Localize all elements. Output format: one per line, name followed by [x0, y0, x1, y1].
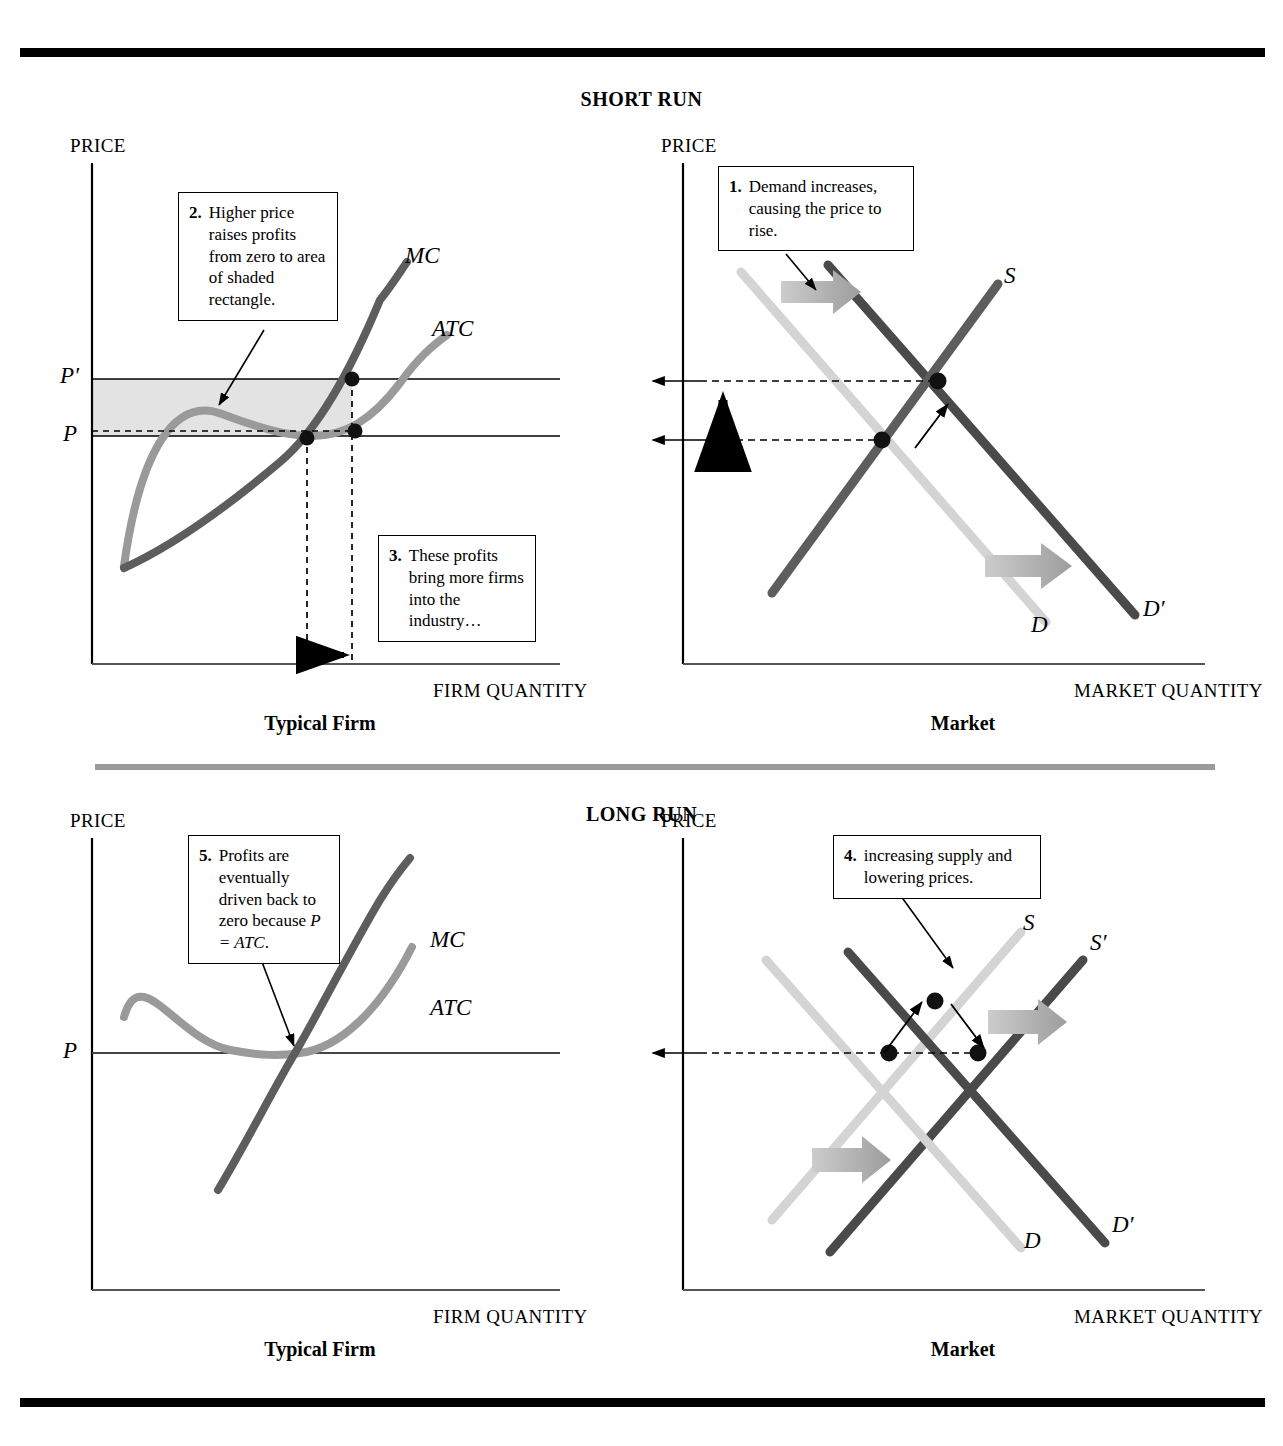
lr-firm-atc-label: ATC — [430, 995, 471, 1021]
callout-3-text: These profits bring more firms into the … — [409, 545, 525, 632]
lr-firm-price-label: P — [63, 1038, 77, 1064]
callout-1-text: Demand increases, causing the price to r… — [749, 176, 903, 241]
sr-firm-atc-label: ATC — [432, 316, 473, 342]
market-dot-shortrun-eq-lr — [927, 993, 944, 1010]
callout-5-leader-line — [262, 962, 294, 1046]
lr-market-supply-old-label: S — [1023, 910, 1035, 936]
callout-4-leader-line — [898, 892, 953, 968]
callout-3: 3. These profits bring more firms into t… — [378, 535, 536, 642]
callout-4-number: 4. — [844, 845, 857, 889]
lr-market-supply-new-label: S′ — [1090, 930, 1107, 956]
callout-5-number: 5. — [199, 845, 212, 954]
callout-4-text: increasing supply and lowering prices. — [864, 845, 1030, 889]
atc-curve-short-run — [124, 335, 447, 566]
demand-shift-arrow-lr — [812, 1136, 891, 1183]
callout-5-text-part2: . — [265, 933, 269, 952]
sr-market-supply-label: S — [1004, 263, 1016, 289]
market-dot-old-eq-sr — [874, 432, 891, 449]
market-dot-new-eq-sr — [930, 373, 947, 390]
callout-5-text: Profits are eventually driven back to ze… — [219, 845, 329, 954]
firm-dot-atc-high-q — [348, 424, 363, 439]
sr-firm-price-label-low: P — [63, 421, 77, 447]
callout-5: 5. Profits are eventually driven back to… — [188, 835, 340, 964]
callout-1-number: 1. — [729, 176, 742, 241]
callout-2-text: Higher price raises profits from zero to… — [209, 202, 327, 311]
callout-4: 4. increasing supply and lowering prices… — [833, 835, 1041, 899]
callout-5-text-part1: Profits are eventually driven back to ze… — [219, 846, 316, 930]
callout-1: 1. Demand increases, causing the price t… — [718, 166, 914, 251]
market-eq-move-arrow-sr — [915, 404, 948, 448]
firm-dot-mc-eq-high — [345, 372, 360, 387]
callout-3-number: 3. — [389, 545, 402, 632]
sr-firm-price-label-high: P′ — [60, 363, 79, 389]
lr-firm-mc-label: MC — [430, 927, 465, 953]
demand-shift-arrow-sr — [781, 270, 861, 314]
lr-market-demand-old-label: D — [1024, 1228, 1041, 1254]
firm-dot-mc-eq-low — [300, 431, 315, 446]
demand-shift-arrow-sr-lower — [985, 543, 1072, 589]
market-eq-move-arrow-down-lr — [951, 1004, 984, 1048]
figure-container: SHORT RUN LONG RUN — [0, 0, 1283, 1446]
sr-market-demand-new-label: D′ — [1143, 596, 1165, 622]
callout-2: 2. Higher price raises profits from zero… — [178, 192, 338, 321]
sr-firm-mc-label: MC — [405, 243, 440, 269]
supply-shift-arrow-lr — [988, 999, 1067, 1045]
sr-market-demand-old-label: D — [1031, 612, 1048, 638]
lr-market-demand-new-label: D′ — [1112, 1212, 1134, 1238]
callout-2-number: 2. — [189, 202, 202, 311]
